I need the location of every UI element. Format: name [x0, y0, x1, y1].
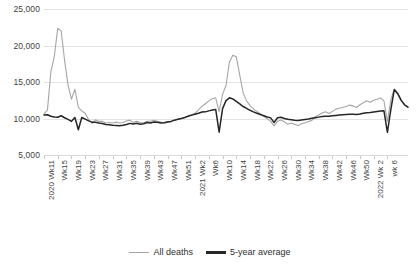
x-axis-tick-label: 2021 Wk2 [199, 160, 207, 196]
y-axis-tick-label: 20,000 [13, 42, 40, 51]
x-axis-tick [264, 156, 265, 159]
x-axis-tick [374, 156, 375, 159]
x-axis-tick-label: Wk50 [363, 160, 371, 180]
x-axis-tick [140, 156, 141, 159]
x-axis-tick [387, 156, 388, 159]
legend: All deaths 5-year average [0, 248, 420, 257]
series-lines [44, 9, 408, 155]
x-axis-tick [236, 156, 237, 159]
line-all-deaths [44, 28, 408, 126]
legend-swatch-five-year-average [206, 251, 226, 254]
x-axis-tick [85, 156, 86, 159]
x-axis-tick-label: Wk43 [157, 160, 165, 180]
x-axis-tick-label: Wk15 [61, 160, 69, 180]
x-axis-tick-label: Wk10 [226, 160, 234, 180]
legend-item-five-year-average: 5-year average [206, 248, 291, 257]
x-axis-tick-label: 2022 Wk 2 [377, 160, 385, 198]
x-axis-tick [360, 156, 361, 159]
x-axis-tick-label: Wk18 [254, 160, 262, 180]
y-axis-tick-label: 5,000 [18, 151, 40, 160]
y-axis-tick-label: 15,000 [13, 78, 40, 87]
x-axis-tick-label: Wk38 [322, 160, 330, 180]
legend-swatch-all-deaths [129, 252, 149, 254]
x-axis-tick-label: Wk19 [75, 160, 83, 180]
x-axis-tick-label: Wk27 [102, 160, 110, 180]
x-axis-tick-label: Wk14 [240, 160, 248, 180]
x-axis-tick [223, 156, 224, 159]
x-axis-tick-label: Wk51 [185, 160, 193, 180]
x-axis-tick-label: wk 6 [391, 160, 399, 176]
x-axis-tick-label: Wk26 [281, 160, 289, 180]
legend-label-all-deaths: All deaths [153, 248, 193, 257]
x-axis-tick [346, 156, 347, 159]
x-axis-tick-label: Wk46 [350, 160, 358, 180]
x-axis-tick [250, 156, 251, 159]
x-axis-tick [99, 156, 100, 159]
x-axis-tick-label: Wk42 [336, 160, 344, 180]
x-axis-tick [113, 156, 114, 159]
source-note [4, 266, 304, 274]
x-axis-tick [154, 156, 155, 159]
x-axis-tick-label: Wk31 [116, 160, 124, 180]
x-axis-tick [58, 156, 59, 159]
x-axis-tick [168, 156, 169, 159]
y-axis: 5,00010,00015,00020,00025,000 [0, 0, 40, 165]
legend-label-five-year-average: 5-year average [230, 248, 291, 257]
line-five-year-average [44, 90, 408, 133]
x-axis-tick [305, 156, 306, 159]
x-axis-tick-label: Wk34 [308, 160, 316, 180]
x-axis-tick [44, 156, 45, 159]
y-axis-tick-label: 25,000 [13, 5, 40, 14]
x-axis-tick-label: Wk6 [212, 160, 220, 176]
x-axis-tick [209, 156, 210, 159]
plot-area [44, 9, 408, 155]
x-axis-tick-label: 2020 Wk11 [48, 160, 56, 200]
x-axis-tick-label: Wk47 [171, 160, 179, 180]
x-axis-tick-label: Wk30 [295, 160, 303, 180]
x-axis-tick [71, 156, 72, 159]
x-axis-tick-label: Wk23 [89, 160, 97, 180]
weekly-deaths-chart: 5,00010,00015,00020,00025,000 2020 Wk11W… [0, 0, 420, 275]
x-axis-tick [126, 156, 127, 159]
y-axis-tick-label: 10,000 [13, 115, 40, 124]
x-axis-tick-label: Wk35 [130, 160, 138, 180]
x-axis-tick [181, 156, 182, 159]
x-axis-tick [278, 156, 279, 159]
x-axis-tick [195, 156, 196, 159]
x-axis-tick [291, 156, 292, 159]
x-axis-tick-label: Wk39 [144, 160, 152, 180]
legend-item-all-deaths: All deaths [129, 248, 193, 257]
x-axis-tick [319, 156, 320, 159]
x-axis-tick-label: Wk22 [267, 160, 275, 180]
x-axis-tick [332, 156, 333, 159]
